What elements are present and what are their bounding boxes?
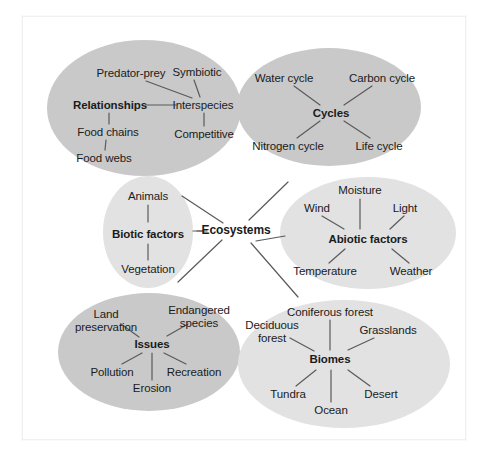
concept-map-page: RelationshipsPredator-preySymbioticInter… [0, 0, 488, 458]
node-label-land-preservation[interactable]: Landpreservation [75, 308, 137, 333]
node-label-wind[interactable]: Wind [304, 202, 330, 215]
node-label-recreation[interactable]: Recreation [167, 366, 222, 379]
edge-line [249, 182, 288, 220]
node-label-food-webs[interactable]: Food webs [76, 152, 131, 165]
node-label-grasslands[interactable]: Grasslands [359, 324, 416, 337]
node-label-moisture[interactable]: Moisture [338, 184, 381, 197]
node-label-ocean[interactable]: Ocean [314, 404, 347, 417]
node-label-competitive[interactable]: Competitive [174, 128, 234, 141]
node-label-temperature[interactable]: Temperature [293, 265, 356, 278]
cluster-hub-label-abiotic[interactable]: Abiotic factors [328, 233, 407, 246]
cluster-hub-label-relationships[interactable]: Relationships [73, 99, 147, 112]
node-label-pollution[interactable]: Pollution [90, 366, 133, 379]
node-label-nitrogen-cycle[interactable]: Nitrogen cycle [252, 140, 323, 153]
node-label-life-cycle[interactable]: Life cycle [356, 140, 403, 153]
node-label-food-chains[interactable]: Food chains [77, 126, 139, 139]
node-label-symbiotic[interactable]: Symbiotic [173, 66, 222, 79]
cluster-hub-label-biotic[interactable]: Biotic factors [112, 228, 184, 241]
cluster-hub-label-biomes[interactable]: Biomes [310, 353, 351, 366]
cluster-hub-label-issues[interactable]: Issues [134, 338, 169, 351]
node-label-animals[interactable]: Animals [128, 190, 168, 203]
node-label-predator-prey[interactable]: Predator-prey [96, 67, 165, 80]
node-label-endangered-species[interactable]: Endangeredspecies [168, 304, 230, 329]
node-label-interspecies[interactable]: Interspecies [173, 99, 234, 112]
node-label-erosion[interactable]: Erosion [133, 382, 171, 395]
node-label-water-cycle[interactable]: Water cycle [255, 72, 314, 85]
node-label-vegetation[interactable]: Vegetation [121, 263, 174, 276]
center-hub-label-ecosystems[interactable]: Ecosystems [201, 224, 270, 237]
node-label-carbon-cycle[interactable]: Carbon cycle [349, 72, 415, 85]
node-label-tundra[interactable]: Tundra [270, 388, 305, 401]
node-label-light[interactable]: Light [393, 202, 417, 215]
cluster-hub-label-cycles[interactable]: Cycles [313, 107, 349, 120]
node-label-desert[interactable]: Desert [364, 388, 397, 401]
node-label-coniferous-forest[interactable]: Coniferous forest [287, 306, 373, 319]
node-label-weather[interactable]: Weather [390, 265, 433, 278]
node-label-deciduous-forest[interactable]: Deciduousforest [245, 319, 298, 344]
